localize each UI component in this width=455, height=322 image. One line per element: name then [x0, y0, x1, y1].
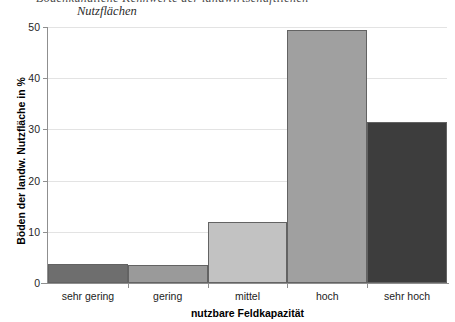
bar[interactable] [48, 264, 128, 283]
bar[interactable] [287, 30, 367, 283]
x-axis-label: nutzbare Feldkapazität [48, 307, 447, 319]
x-tick-mark [208, 284, 209, 288]
y-tick-mark [43, 129, 48, 130]
x-tick-label: mittel [208, 290, 288, 302]
x-tick-label: gering [128, 290, 208, 302]
y-tick-mark [43, 78, 48, 79]
x-axis-line [41, 283, 449, 284]
bar-chart: 01020304050 Böden der landw. Nutzfläche … [0, 0, 455, 322]
x-tick-mark [128, 284, 129, 288]
x-tick-mark [367, 284, 368, 288]
plot-area [48, 27, 447, 283]
y-tick-mark [43, 283, 48, 284]
y-axis-label: Böden der landw. Nutzfläche in % [15, 56, 27, 266]
y-tick-mark [43, 232, 48, 233]
gridline [48, 78, 447, 79]
x-tick-label: sehr gering [48, 290, 128, 302]
x-tick-mark [287, 284, 288, 288]
x-axis-tick-labels: sehr geringgeringmittelhochsehr hoch [48, 290, 447, 306]
x-tick-label: sehr hoch [367, 290, 447, 302]
bar[interactable] [128, 265, 208, 283]
y-tick-label: 0 [4, 277, 40, 289]
gridline [48, 27, 447, 28]
x-tick-label: hoch [287, 290, 367, 302]
y-tick-mark [43, 181, 48, 182]
y-tick-label: 50 [4, 21, 40, 33]
bar[interactable] [367, 122, 447, 283]
y-tick-mark [43, 27, 48, 28]
bar[interactable] [208, 222, 288, 283]
